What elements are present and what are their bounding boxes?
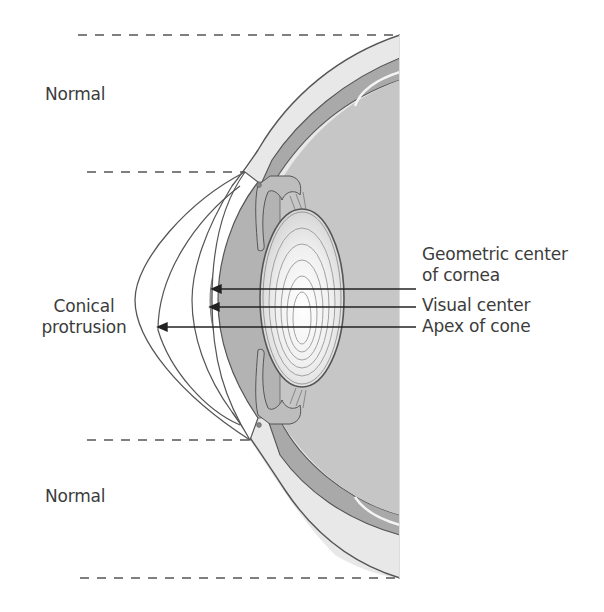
- arrowhead-apex: [158, 323, 167, 331]
- label-geometric-line2: of cornea: [422, 265, 568, 286]
- limbus-dot-top: [257, 183, 262, 188]
- label-geometric-center: Geometric center of cornea: [422, 244, 568, 286]
- label-visual-center: Visual center: [422, 295, 530, 316]
- label-conical-line1: Conical: [30, 296, 138, 317]
- label-conical-line2: protrusion: [30, 317, 138, 338]
- label-geometric-line1: Geometric center: [422, 244, 568, 265]
- label-normal-top: Normal: [45, 84, 105, 105]
- limbus-dot-bottom: [257, 423, 262, 428]
- label-normal-bottom: Normal: [45, 486, 105, 507]
- label-apex-of-cone: Apex of cone: [422, 316, 530, 337]
- label-conical-protrusion: Conical protrusion: [30, 296, 138, 338]
